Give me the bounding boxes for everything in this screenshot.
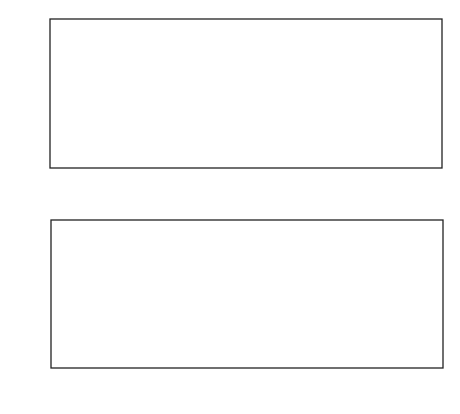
top-plot-frame [50, 19, 442, 168]
figure [0, 0, 460, 414]
time-series-panel [50, 19, 442, 168]
bottom-plot-frame [51, 220, 443, 368]
periodogram-panel [51, 220, 443, 368]
